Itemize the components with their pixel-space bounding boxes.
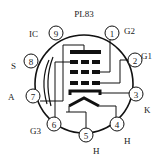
tube-pinout-diagram: PL83 [0,0,168,161]
heater [69,98,99,106]
pin-8: 8 S [11,54,38,71]
pin-label: H [93,146,100,156]
pin-label: G2 [124,26,135,36]
pin-label: S [11,61,16,71]
svg-text:8: 8 [29,57,34,67]
pin-5: 5 H [79,128,100,156]
svg-text:5: 5 [84,131,89,141]
pin-3: 3 K [129,87,151,115]
svg-text:7: 7 [31,92,36,102]
shield-arc-inner [48,57,53,106]
cathode [70,91,100,95]
svg-text:9: 9 [54,29,59,39]
svg-text:3: 3 [134,90,139,100]
tube-schematic: PL83 [0,0,168,161]
pin-label: G3 [30,126,41,136]
grid-g2 [70,70,100,74]
pin-9: 9 IC [29,26,63,40]
pin-4: 4 H [110,117,131,146]
pin-label: H [124,136,131,146]
pin-2: 2 G1 [128,51,152,67]
pin-7: 7 A [8,89,40,103]
svg-text:6: 6 [52,120,57,130]
tube-title: PL83 [74,9,94,19]
pin-label: A [8,92,15,102]
pin-label: G1 [141,51,152,61]
svg-text:1: 1 [110,29,115,39]
pin-label: IC [29,29,38,39]
pin-1: 1 G2 [105,26,135,40]
pin-6: 6 G3 [30,117,61,136]
grid-g3 [70,60,100,64]
svg-text:2: 2 [133,56,138,66]
anode-plate [70,50,101,54]
svg-text:4: 4 [115,120,120,130]
grid-g1 [70,81,100,85]
pin-label: K [144,105,151,115]
